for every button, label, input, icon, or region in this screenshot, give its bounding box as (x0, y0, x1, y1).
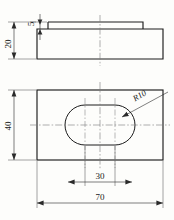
dimension-height-overall: 20 (3, 22, 36, 59)
dim-label-70: 70 (96, 192, 106, 202)
dim-arrow-5-lower (38, 29, 43, 34)
front-view-step-outline (48, 22, 143, 29)
engineering-drawing: 20 5 40 30 (0, 0, 174, 220)
front-view (37, 15, 163, 66)
dimension-slot-radius: R10 (122, 87, 168, 117)
plan-view (30, 82, 170, 170)
dim-label-40: 40 (3, 121, 13, 131)
dim-label-30: 30 (96, 171, 106, 181)
dim-label-5: 5 (26, 21, 36, 26)
dim-label-20: 20 (3, 39, 13, 49)
